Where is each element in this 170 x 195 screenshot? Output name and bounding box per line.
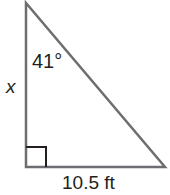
triangle-diagram: [0, 0, 170, 195]
right-triangle: [26, 3, 165, 167]
right-angle-marker: [26, 147, 46, 167]
vertical-side-label: x: [6, 76, 16, 98]
angle-label: 41°: [32, 50, 62, 73]
base-length-label: 10.5 ft: [62, 172, 115, 194]
